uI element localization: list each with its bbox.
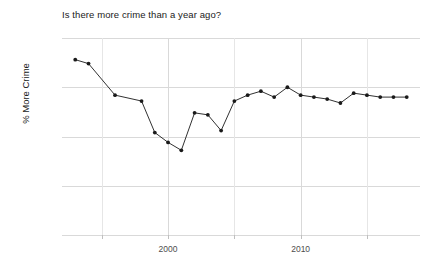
plot-area: 0%25%50%75%100% 20002010 (62, 38, 420, 235)
x-tick-label-2010: 2010 (271, 244, 331, 254)
data-point (166, 141, 170, 145)
y-axis-title: % More Crime (20, 24, 31, 164)
data-point (405, 95, 409, 99)
data-point (232, 99, 236, 103)
data-point (259, 89, 263, 93)
x-tick-label-2000: 2000 (138, 244, 198, 254)
data-point (272, 95, 276, 99)
x-tick-mark-2000 (168, 235, 169, 239)
x-tick-mark-1995 (102, 235, 103, 239)
data-point (87, 62, 91, 66)
data-point (206, 113, 210, 117)
x-tick-mark-2010 (301, 235, 302, 239)
data-point (339, 101, 343, 105)
data-point (378, 95, 382, 99)
data-point (352, 91, 356, 95)
series-line-0 (75, 60, 406, 151)
page-title: Is there more crime than a year ago? (62, 9, 221, 20)
data-point (193, 111, 197, 115)
data-point (140, 99, 144, 103)
data-point (219, 129, 223, 133)
data-point (312, 95, 316, 99)
data-series-line (62, 38, 420, 235)
data-point (179, 148, 183, 152)
x-tick-mark-2015 (367, 235, 368, 239)
data-point (392, 95, 396, 99)
data-point (113, 93, 117, 97)
data-point (246, 93, 250, 97)
x-tick-mark-2005 (234, 235, 235, 239)
crime-trend-line-chart: Is there more crime than a year ago? % M… (0, 0, 428, 269)
data-point (153, 131, 157, 135)
data-point (286, 85, 290, 89)
data-point (365, 93, 369, 97)
data-point (325, 97, 329, 101)
data-point (73, 58, 77, 62)
data-point (299, 93, 303, 97)
